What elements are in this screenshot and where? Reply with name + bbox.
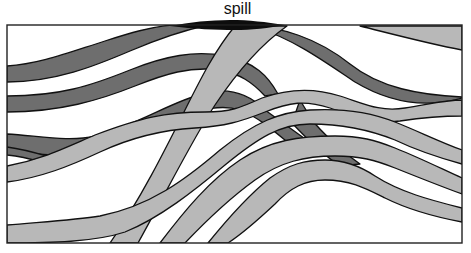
light-layer-4	[160, 136, 462, 243]
layers-group	[7, 25, 462, 243]
cross-section-diagram	[0, 0, 471, 253]
dark-layer-1	[7, 25, 208, 82]
light-layer-top-right	[360, 26, 462, 50]
